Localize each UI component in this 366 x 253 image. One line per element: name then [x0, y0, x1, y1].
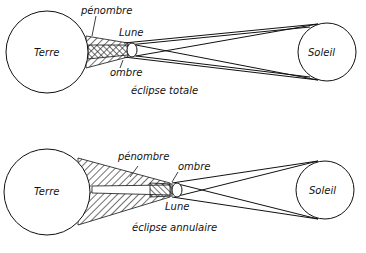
sun-label: Soleil	[309, 185, 336, 196]
caption: éclipse annulaire	[132, 222, 217, 233]
moon-label: Lune	[165, 201, 189, 212]
umbra-label: ombre	[178, 161, 210, 172]
earth-label: Terre	[34, 186, 59, 197]
annular-eclipse-diagram: Terre pénombre ombre Lune éclipse annula…	[4, 149, 354, 235]
penumbra-label: pénombre	[117, 151, 169, 162]
moon-circle	[127, 43, 137, 57]
moon-label: Lune	[119, 27, 143, 38]
eclipse-diagram: Terre pénombre Lune ombre éclipse totale…	[0, 0, 366, 253]
sun-label: Soleil	[308, 47, 335, 58]
caption: éclipse totale	[131, 85, 198, 96]
umbra-label: ombre	[110, 67, 142, 78]
umbra-region	[150, 183, 172, 197]
penumbra-label: pénombre	[80, 5, 132, 16]
total-eclipse-diagram: Terre pénombre Lune ombre éclipse totale…	[6, 5, 356, 96]
earth-label: Terre	[34, 47, 59, 58]
moon-circle	[172, 183, 182, 197]
